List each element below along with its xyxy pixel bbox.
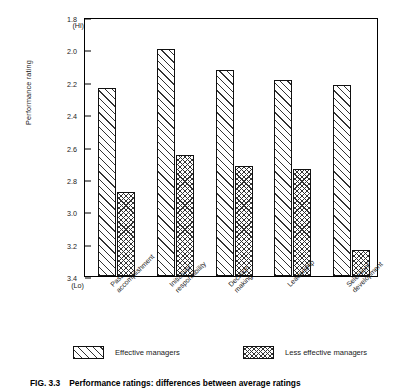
y-axis-tick-label: 2.6 (43, 144, 85, 153)
plot-area: 1.82.02.22.42.62.83.03.23.4 (84, 18, 378, 277)
bar-effective (216, 70, 234, 276)
y-axis-tick-label: 1.8 (43, 15, 85, 24)
bar-group (216, 19, 253, 276)
legend-swatch-less-effective-managers (243, 346, 274, 359)
bar-less-effective (235, 166, 253, 276)
figure-caption: FIG. 3.3Performance ratings: differences… (30, 378, 400, 388)
figure-number: FIG. 3.3 (30, 378, 60, 388)
bar-group (157, 19, 194, 276)
y-axis-title: Performance rating (24, 33, 33, 153)
bar-series-group (85, 19, 377, 276)
y-axis-tick-label: 2.4 (43, 112, 85, 121)
y-axis-tickmark (85, 278, 91, 279)
legend-label-less-effective-managers: Less effective managers (285, 348, 367, 357)
legend-label-effective-managers: Effective managers (115, 348, 180, 357)
bar-less-effective (176, 155, 194, 276)
y-axis-tick-label: 3.0 (43, 209, 85, 218)
y-axis-tick-label: 2.2 (43, 79, 85, 88)
bar-group (274, 19, 311, 276)
bar-effective (98, 88, 116, 276)
bar-group (98, 19, 135, 276)
bar-effective (157, 49, 175, 276)
bar-effective (333, 85, 351, 276)
y-axis-tick-label: 2.8 (43, 176, 85, 185)
legend-swatch-effective-managers (73, 346, 104, 359)
y-axis-tick-label: 3.2 (43, 241, 85, 250)
bar-effective (274, 80, 292, 276)
legend-entry-less-effective-managers: Less effective managers (243, 346, 367, 359)
figure-caption-text: Performance ratings: differences between… (69, 378, 300, 388)
bar-group (333, 19, 370, 276)
y-axis-tick-label: 2.0 (43, 47, 85, 56)
legend-entry-effective-managers: Effective managers (73, 346, 180, 359)
y-axis-tick-label: 3.4 (43, 274, 85, 283)
